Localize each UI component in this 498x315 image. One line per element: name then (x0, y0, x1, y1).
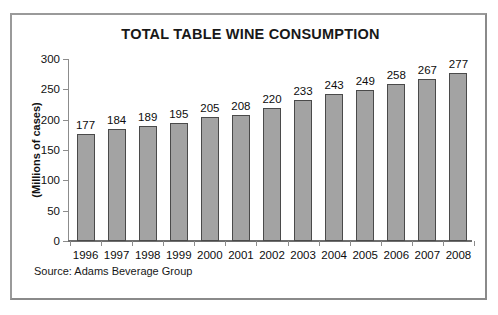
y-tick-200: 200 (68, 120, 69, 121)
bar-2006 (387, 84, 405, 241)
x-tick-mark (350, 241, 351, 246)
y-tick-mark (63, 211, 68, 212)
x-tick-mark (70, 241, 71, 246)
y-tick-label: 100 (41, 174, 60, 186)
plot-area: 050100150200250300 177184189195205208220… (68, 59, 472, 241)
bar-value-2006: 258 (387, 69, 406, 81)
x-tick-label-2000: 2000 (197, 249, 223, 261)
y-tick-mark (63, 150, 68, 151)
bar-2007 (418, 79, 436, 241)
y-tick-150: 150 (68, 150, 69, 151)
y-tick-mark (63, 59, 68, 60)
x-tick-mark (225, 241, 226, 246)
bar-2003 (294, 100, 312, 241)
x-tick-mark (288, 241, 289, 246)
x-tick-mark (319, 241, 320, 246)
y-tick-label: 300 (41, 53, 60, 65)
y-tick-mark (63, 180, 68, 181)
x-tick-label-1998: 1998 (135, 249, 161, 261)
y-tick-label: 200 (41, 114, 60, 126)
bar-1997 (108, 129, 126, 241)
x-tick-mark (256, 241, 257, 246)
y-tick-label: 250 (41, 83, 60, 95)
y-tick-50: 50 (68, 211, 69, 212)
bar-2008 (449, 73, 467, 241)
y-tick-250: 250 (68, 89, 69, 90)
bar-value-2000: 205 (200, 102, 219, 114)
bar-1999 (170, 123, 188, 241)
y-tick-label: 150 (41, 144, 60, 156)
bar-1996 (77, 134, 95, 241)
x-tick-label-2007: 2007 (415, 249, 441, 261)
bar-2004 (325, 94, 343, 241)
bar-2000 (201, 117, 219, 241)
bar-value-2004: 243 (325, 79, 344, 91)
x-tick-mark (163, 241, 164, 246)
y-tick-mark (63, 89, 68, 90)
x-tick-label-1997: 1997 (104, 249, 130, 261)
bar-value-2008: 277 (449, 58, 468, 70)
x-tick-label-1999: 1999 (166, 249, 192, 261)
y-tick-100: 100 (68, 180, 69, 181)
bar-2002 (263, 108, 281, 241)
x-tick-label-2006: 2006 (384, 249, 410, 261)
x-tick-mark (132, 241, 133, 246)
bar-value-1997: 184 (107, 114, 126, 126)
bar-value-1996: 177 (76, 119, 95, 131)
source-note: Source: Adams Beverage Group (34, 265, 192, 277)
x-tick-label-2002: 2002 (259, 249, 285, 261)
x-tick-mark (443, 241, 444, 246)
bar-value-1999: 195 (169, 108, 188, 120)
bar-2001 (232, 115, 250, 241)
x-tick-label-2008: 2008 (446, 249, 472, 261)
y-tick-300: 300 (68, 59, 69, 60)
y-tick-mark (63, 120, 68, 121)
y-tick-label: 50 (47, 205, 60, 217)
bar-2005 (356, 90, 374, 241)
chart-frame: TOTAL TABLE WINE CONSUMPTION (Millions o… (10, 13, 487, 300)
x-tick-mark (474, 241, 475, 246)
x-tick-label-2003: 2003 (290, 249, 316, 261)
x-tick-mark (381, 241, 382, 246)
x-tick-mark (101, 241, 102, 246)
bar-value-2001: 208 (231, 100, 250, 112)
bar-value-1998: 189 (138, 111, 157, 123)
x-tick-label-2004: 2004 (321, 249, 347, 261)
bar-value-2002: 220 (262, 93, 281, 105)
bar-value-2005: 249 (356, 75, 375, 87)
chart-title: TOTAL TABLE WINE CONSUMPTION (12, 26, 489, 42)
y-tick-mark (63, 241, 68, 242)
y-tick-label: 0 (54, 235, 60, 247)
x-tick-label-1996: 1996 (73, 249, 99, 261)
bar-value-2003: 233 (293, 85, 312, 97)
x-tick-label-2005: 2005 (352, 249, 378, 261)
bar-1998 (139, 126, 157, 241)
x-tick-label-2001: 2001 (228, 249, 254, 261)
bar-value-2007: 267 (418, 64, 437, 76)
x-tick-mark (412, 241, 413, 246)
y-tick-0: 0 (68, 241, 69, 242)
x-tick-mark (194, 241, 195, 246)
